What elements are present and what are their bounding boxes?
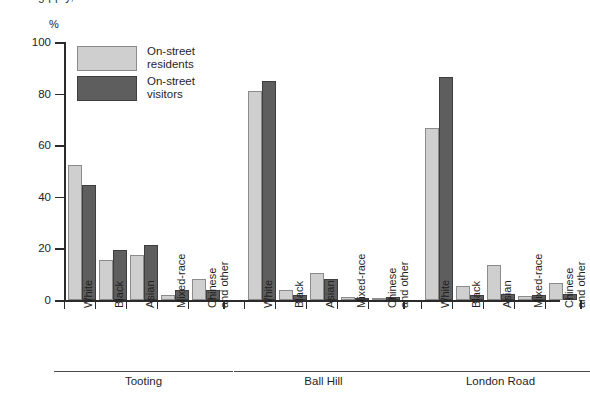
x-axis-tick xyxy=(403,300,405,309)
legend-label-residents-line1: On-street xyxy=(147,45,195,58)
x-axis-tick xyxy=(337,300,339,309)
x-category-label: Mixed-race xyxy=(356,254,368,308)
y-tick-label: 20 xyxy=(38,242,51,254)
y-tick-mark xyxy=(55,197,64,199)
y-tick-mark xyxy=(55,145,64,147)
x-axis-tick xyxy=(95,300,97,309)
x-category-label: White xyxy=(83,280,95,308)
x-category-label: Asian xyxy=(502,280,514,308)
bar-residents xyxy=(518,296,532,300)
x-category-label-line1: White xyxy=(440,280,452,308)
x-category-label-line1: Chinese xyxy=(564,262,576,308)
x-category-label: Mixed-race xyxy=(176,254,188,308)
y-tick-label: 60 xyxy=(38,139,51,151)
group-label: Ball Hill xyxy=(234,375,413,387)
x-axis-tick xyxy=(126,300,128,309)
legend-label-visitors: On-street visitors xyxy=(147,75,195,101)
x-category-label: White xyxy=(440,280,452,308)
x-axis-tick xyxy=(306,300,308,309)
bar-residents xyxy=(456,286,470,300)
bar-visitors xyxy=(439,77,453,300)
x-axis-tick xyxy=(244,300,246,309)
legend-swatch-visitors xyxy=(77,76,137,101)
x-axis-tick xyxy=(275,300,277,309)
x-category-label: Black xyxy=(294,281,306,308)
x-category-label: Black xyxy=(471,281,483,308)
y-tick-label: 0 xyxy=(45,294,51,306)
x-axis-tick xyxy=(157,300,159,309)
bar-visitors xyxy=(262,81,276,300)
x-category-label-line1: White xyxy=(263,280,275,308)
x-category-label-line1: Asian xyxy=(325,280,337,308)
x-axis-tick xyxy=(368,300,370,309)
x-axis-tick xyxy=(483,300,485,309)
bar-residents xyxy=(130,255,144,300)
x-category-label-line1: Chinese xyxy=(387,262,399,308)
y-tick-label: 100 xyxy=(32,36,51,48)
group-label: Tooting xyxy=(54,375,233,387)
y-tick-label: 40 xyxy=(38,191,51,203)
x-category-label-line1: Asian xyxy=(502,280,514,308)
group-rule xyxy=(411,371,590,372)
y-tick-label: 80 xyxy=(38,88,51,100)
x-category-label-line1: Black xyxy=(294,281,306,308)
bar-residents xyxy=(68,165,82,300)
bar-residents xyxy=(425,128,439,300)
legend-label-residents-line2: residents xyxy=(147,58,195,71)
x-category-label: Black xyxy=(114,281,126,308)
x-category-label: Mixed-race xyxy=(533,254,545,308)
x-axis-tick xyxy=(452,300,454,309)
x-category-label-line1: Asian xyxy=(145,280,157,308)
x-category-label-line1: Mixed-race xyxy=(533,254,545,308)
x-axis-tick xyxy=(188,300,190,309)
bar-residents xyxy=(248,91,262,300)
y-tick-mark xyxy=(55,248,64,250)
bar-residents xyxy=(310,273,324,300)
x-category-label: Chineseand other xyxy=(207,262,230,308)
x-category-label: White xyxy=(263,280,275,308)
x-category-label: Chineseand other xyxy=(564,262,587,308)
x-axis-tick xyxy=(421,300,423,309)
x-category-label-line1: Black xyxy=(471,281,483,308)
legend-label-visitors-line2: visitors xyxy=(147,88,195,101)
x-category-label-line1: Mixed-race xyxy=(356,254,368,308)
x-category-label: Asian xyxy=(325,280,337,308)
x-category-label-line1: Mixed-race xyxy=(176,254,188,308)
legend-label-visitors-line1: On-street xyxy=(147,75,195,88)
x-category-label-line1: Black xyxy=(114,281,126,308)
bar-residents xyxy=(99,260,113,300)
x-axis-tick xyxy=(223,300,225,309)
bar-residents xyxy=(341,297,355,300)
bar-residents xyxy=(549,283,563,300)
x-category-label-line1: White xyxy=(83,280,95,308)
clipped-title: g pp y, xyxy=(38,0,74,3)
bar-residents xyxy=(161,295,175,300)
x-axis-tick xyxy=(580,300,582,309)
bar-residents xyxy=(192,279,206,300)
y-tick-mark xyxy=(55,94,64,96)
bar-residents xyxy=(372,298,386,300)
bar-residents xyxy=(487,265,501,300)
y-tick-mark xyxy=(55,42,64,44)
group-rule xyxy=(234,371,413,372)
bar-residents xyxy=(279,290,293,300)
x-category-label: Chineseand other xyxy=(387,262,410,308)
legend-label-residents: On-street residents xyxy=(147,45,195,71)
x-axis-tick xyxy=(545,300,547,309)
group-label: London Road xyxy=(411,375,590,387)
legend-swatch-residents xyxy=(77,46,137,71)
x-axis-line xyxy=(64,300,560,302)
x-axis-tick xyxy=(64,300,66,309)
plot-area: 020406080100 xyxy=(64,42,560,300)
x-category-label: Asian xyxy=(145,280,157,308)
y-axis-unit-label: % xyxy=(49,18,59,30)
x-category-label-line1: Chinese xyxy=(207,262,219,308)
group-rule xyxy=(54,371,233,372)
x-axis-tick xyxy=(514,300,516,309)
